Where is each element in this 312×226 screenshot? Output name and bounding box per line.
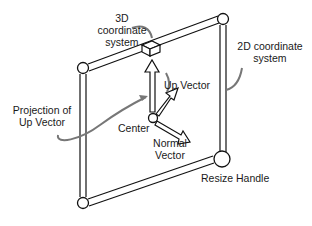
label-line: 2D coordinate (228, 40, 312, 52)
corner-handle-bottom-left (78, 198, 89, 209)
label-3d-coordinate-system: 3D coordinate system (92, 12, 152, 48)
label-line: Normal (150, 137, 190, 149)
label-line: Up Vector (8, 116, 76, 128)
label-line: 3D (92, 12, 152, 24)
projection-arrow (156, 88, 178, 116)
label-2d-coordinate-system: 2D coordinate system (228, 40, 312, 64)
label-line: coordinate (92, 24, 152, 36)
corner-handle-top-left (78, 63, 89, 74)
label-line: Projection of (8, 104, 76, 116)
corner-handle-top-right (218, 14, 229, 25)
label-normal-vector: Normal Vector (150, 137, 190, 161)
label-line: system (228, 52, 312, 64)
resize-handle (214, 151, 230, 167)
label-center: Center (118, 122, 150, 134)
up-vector-arrow (145, 60, 159, 112)
label-line: system (92, 36, 152, 48)
label-resize-handle: Resize Handle (201, 172, 269, 184)
label-up-vector: Up Vector (164, 79, 210, 91)
label-line: Vector (150, 149, 190, 161)
callout-2d (226, 68, 242, 90)
label-projection-of-up-vector: Projection of Up Vector (8, 104, 76, 128)
